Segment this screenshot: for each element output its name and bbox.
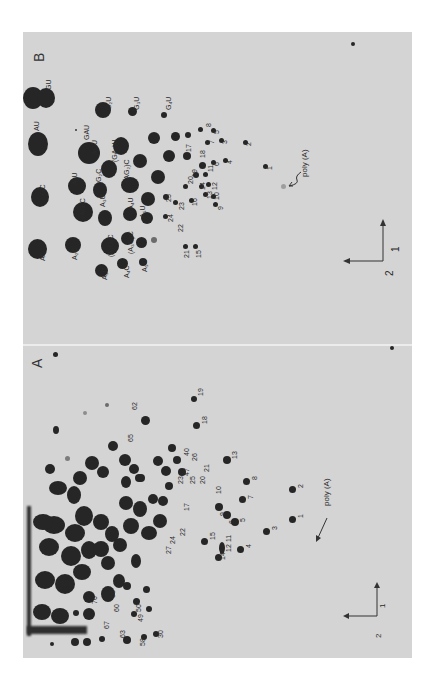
label-10: 10 xyxy=(213,192,220,200)
label-24: 24 xyxy=(169,536,176,544)
poly-a-arrow-icon xyxy=(313,516,333,546)
label-16: 16 xyxy=(191,198,198,206)
label-4: 4 xyxy=(245,544,252,548)
label-67: 67 xyxy=(103,621,110,629)
label-25: 25 xyxy=(189,476,196,484)
label-27: 27 xyxy=(165,546,172,554)
label-a5u: A₅U xyxy=(139,205,146,218)
spot xyxy=(129,464,139,474)
label-6: 6 xyxy=(213,162,220,166)
spot-gu xyxy=(37,88,55,108)
label-agc: (AG)C xyxy=(79,198,86,218)
spot xyxy=(165,482,173,490)
spot xyxy=(121,476,131,488)
spot xyxy=(158,496,168,506)
spot xyxy=(97,466,109,478)
spot xyxy=(73,610,79,616)
marker-dot xyxy=(53,352,58,357)
spot xyxy=(101,556,115,570)
spot xyxy=(289,486,296,493)
label-a4u: A₄U xyxy=(127,197,134,210)
label-18: 18 xyxy=(199,150,206,158)
panel-letter-a: A xyxy=(29,359,45,368)
label-19: 19 xyxy=(197,388,204,396)
spot xyxy=(163,150,175,162)
label-a2c: A₂C xyxy=(71,248,78,260)
spot xyxy=(33,514,53,530)
label-ga2u: (GA₂)U xyxy=(111,139,118,162)
spot-17 xyxy=(183,152,191,160)
spot xyxy=(53,426,59,434)
label-3: 3 xyxy=(221,140,228,144)
spot xyxy=(168,444,176,452)
label-14: 14 xyxy=(219,552,226,560)
spot xyxy=(141,526,157,540)
label-5: 5 xyxy=(239,518,246,522)
spot xyxy=(171,132,180,141)
spot-au xyxy=(28,132,48,156)
origin-streak xyxy=(27,506,31,636)
marker-dot xyxy=(390,346,394,350)
label-11: 11 xyxy=(207,165,214,172)
label-17: 17 xyxy=(185,144,192,152)
label-g4u: G₄U xyxy=(165,97,172,110)
spot xyxy=(119,496,133,510)
spot xyxy=(99,636,105,642)
spot xyxy=(191,396,197,402)
spot xyxy=(51,608,69,624)
label-a3gc: (A₃G)C xyxy=(127,231,134,254)
label-g3u: G₃U xyxy=(133,97,140,110)
label-a3c: A₃C xyxy=(101,267,108,280)
label-23: 23 xyxy=(177,476,184,484)
spot-18 xyxy=(199,162,206,169)
label-7: 7 xyxy=(247,495,254,499)
axis-2-label: 2 xyxy=(385,270,395,276)
label-30: 30 xyxy=(157,630,164,638)
label-20: 20 xyxy=(187,176,194,184)
spot xyxy=(83,638,91,646)
label-12: 12 xyxy=(225,544,232,552)
spot xyxy=(215,503,223,511)
label-65: 65 xyxy=(127,434,134,442)
spot xyxy=(45,464,55,474)
spot xyxy=(201,538,208,545)
label-47: 47 xyxy=(183,468,190,476)
spot xyxy=(193,422,200,429)
spot xyxy=(75,506,93,526)
label-gc: GC xyxy=(39,185,46,196)
spot xyxy=(263,528,270,535)
spot xyxy=(39,538,59,556)
label-18: 18 xyxy=(201,416,208,424)
marker-dot xyxy=(50,642,54,646)
spot xyxy=(83,608,95,620)
spot xyxy=(148,132,160,144)
spot xyxy=(123,582,131,590)
axis-1-label: 1 xyxy=(379,604,387,608)
label-40: 40 xyxy=(183,448,190,456)
label-ag2c: (AG₂)C xyxy=(123,159,130,182)
poly-a-arrow-icon xyxy=(285,170,305,190)
label-17: 17 xyxy=(183,503,190,511)
spot xyxy=(135,474,143,482)
label-2: 2 xyxy=(245,142,252,146)
spot xyxy=(151,170,165,184)
label-25: 25 xyxy=(165,194,172,202)
label-g2u: G₂U xyxy=(105,97,112,110)
panel-a-fingerprint: A xyxy=(23,346,412,658)
panel-letter-b: B xyxy=(31,53,47,62)
spot xyxy=(63,586,69,592)
spot xyxy=(108,441,118,451)
label-66: 66 xyxy=(109,590,116,598)
label-8: 8 xyxy=(251,476,258,480)
spot xyxy=(33,604,51,620)
spot-g4u xyxy=(161,112,167,118)
panel-b-fingerprint: B GU AU GC AC G₂U GAU AGU A₂U (AG)C A₂C … xyxy=(23,32,412,344)
label-49: 49 xyxy=(137,614,144,622)
label-9: 9 xyxy=(219,512,226,516)
spot-a3u xyxy=(98,210,112,226)
spot xyxy=(67,486,81,504)
label-10: 10 xyxy=(215,486,222,494)
spot xyxy=(75,129,77,131)
spot xyxy=(146,606,152,612)
spot xyxy=(185,132,191,138)
